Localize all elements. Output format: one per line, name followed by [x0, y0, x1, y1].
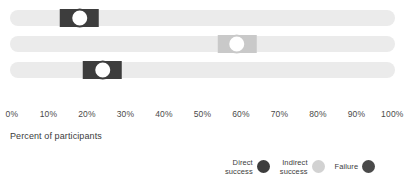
- legend: Direct successIndirect successFailure: [225, 154, 407, 179]
- bar-row[interactable]: [10, 36, 395, 52]
- x-axis-tick-label: 0%: [6, 108, 19, 120]
- bar-marker[interactable]: [83, 61, 122, 79]
- bar-row[interactable]: [10, 62, 395, 78]
- legend-swatch-failure: [362, 160, 375, 173]
- bar-row[interactable]: [10, 10, 395, 26]
- marker-ring: [93, 61, 112, 80]
- legend-item-label: Direct success: [225, 158, 253, 176]
- x-axis-tick-label: 20%: [78, 108, 96, 120]
- bar-marker[interactable]: [60, 9, 99, 27]
- slider-chart: 0%10%20%30%40%50%60%70%80%90%100% Percen…: [0, 0, 407, 179]
- x-axis-tick-label: 90%: [348, 108, 366, 120]
- legend-item-label: Failure: [335, 162, 359, 171]
- bar-track: [10, 62, 395, 78]
- bar-marker[interactable]: [218, 35, 257, 53]
- x-axis-title: Percent of participants: [10, 130, 102, 142]
- x-axis-tick-label: 50%: [194, 108, 212, 120]
- legend-item-direct-success[interactable]: Direct success: [225, 158, 270, 176]
- legend-item-failure[interactable]: Failure: [335, 160, 376, 173]
- bars-area: [0, 0, 407, 98]
- x-axis: 0%10%20%30%40%50%60%70%80%90%100%: [10, 108, 395, 122]
- bar-track: [10, 36, 395, 52]
- legend-item-indirect-success[interactable]: Indirect success: [280, 158, 325, 176]
- x-axis-tick-label: 80%: [309, 108, 327, 120]
- x-axis-tick-label: 100%: [381, 108, 404, 120]
- marker-ring: [70, 9, 89, 28]
- x-axis-tick-label: 70%: [271, 108, 289, 120]
- x-axis-tick-label: 30%: [117, 108, 135, 120]
- legend-swatch-indirect-success: [312, 160, 325, 173]
- x-axis-tick-label: 40%: [155, 108, 173, 120]
- x-axis-tick-label: 60%: [232, 108, 250, 120]
- legend-swatch-direct-success: [257, 160, 270, 173]
- legend-item-label: Indirect success: [280, 158, 308, 176]
- marker-ring: [228, 35, 247, 54]
- x-axis-tick-label: 10%: [40, 108, 58, 120]
